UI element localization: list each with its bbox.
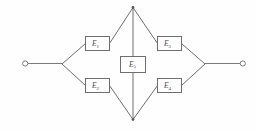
wire-e4-to-right-node	[182, 64, 206, 86]
bridge-network-svg: E1 E2 E3 E4 E5	[0, 0, 257, 132]
component-E3: E3	[158, 37, 182, 51]
wire-left-node-to-e1	[62, 44, 86, 65]
circuit-diagram: E1 E2 E3 E4 E5	[0, 0, 257, 132]
component-E5: E5	[121, 57, 146, 73]
top-junction-node	[132, 6, 135, 9]
right-terminal-icon	[240, 61, 245, 66]
wire-e2-to-bottom-node	[110, 86, 134, 120]
component-E2: E2	[86, 79, 110, 93]
wire-top-node-to-e3	[133, 8, 158, 44]
wire-e3-to-right-node	[182, 44, 206, 65]
bottom-junction-node	[132, 118, 135, 121]
component-E1: E1	[86, 37, 110, 51]
wire-left-node-to-e2	[62, 64, 86, 86]
left-terminal-icon	[23, 61, 28, 66]
wire-bottom-node-to-e4	[133, 86, 158, 120]
component-E4: E4	[158, 79, 182, 93]
wire-e1-to-top-node	[110, 8, 134, 44]
